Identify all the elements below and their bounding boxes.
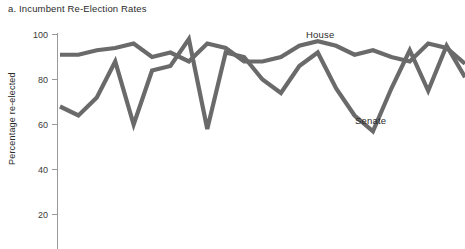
series-label-senate: Senate <box>355 115 386 126</box>
y-tick-label-20: 20 <box>38 210 48 220</box>
y-tick-label-80: 80 <box>38 75 48 85</box>
series-line-senate <box>60 39 465 131</box>
y-axis-ticks <box>52 35 58 215</box>
y-tick-label-100: 100 <box>33 30 48 40</box>
y-tick-label-40: 40 <box>38 165 48 175</box>
y-axis-title: Percentage re-elected <box>7 72 17 165</box>
figure-incumbent-reelection-rates: a. Incumbent Re-Election Rates 100 80 60… <box>0 0 465 249</box>
chart-plot-area: 100 80 60 40 20 Percentage re-elected Ho… <box>0 0 465 249</box>
y-tick-label-60: 60 <box>38 120 48 130</box>
series-label-house: House <box>306 29 334 40</box>
